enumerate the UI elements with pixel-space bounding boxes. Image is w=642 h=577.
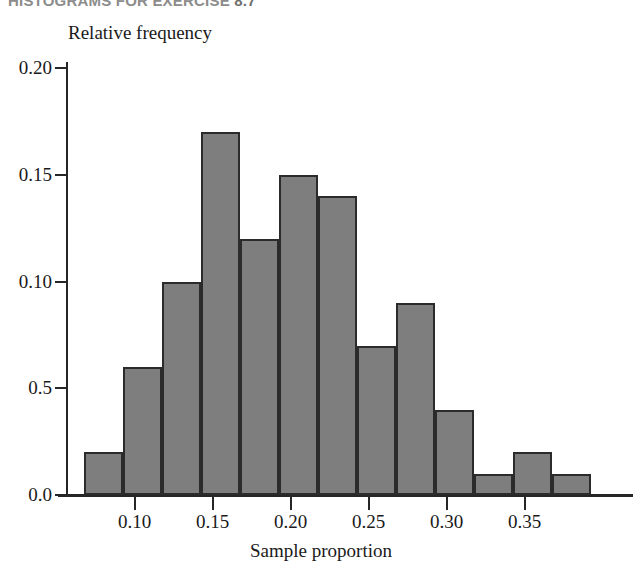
x-axis-tick (368, 497, 370, 510)
histogram-bar (279, 175, 318, 495)
x-axis-tick-label: 0.35 (485, 512, 565, 531)
histogram-bar (552, 474, 591, 495)
histogram-bar (240, 239, 279, 495)
x-axis-tick (446, 497, 448, 510)
y-axis-tick-label: 0.15 (0, 165, 52, 184)
x-axis-tick (212, 497, 214, 510)
histogram-bar (318, 196, 357, 495)
plot-area: 0.00.50.100.150.20 0.100.150.200.250.300… (0, 0, 642, 577)
y-axis-tick (55, 387, 67, 389)
y-axis-line (66, 62, 68, 497)
y-axis-tick-label: 0.10 (0, 272, 52, 291)
x-axis-tick (290, 497, 292, 510)
histogram-figure: Relative frequency 0.00.50.100.150.20 0.… (0, 0, 642, 577)
y-axis-tick-label: 0.5 (0, 378, 52, 397)
y-axis-tick (55, 174, 67, 176)
histogram-bar (357, 346, 396, 495)
x-axis-tick-label: 0.30 (407, 512, 487, 531)
histogram-bar (123, 367, 162, 495)
histogram-bar (162, 282, 201, 496)
x-axis-title: Sample proportion (0, 540, 642, 562)
x-axis-tick-label: 0.10 (95, 512, 175, 531)
histogram-bar (474, 474, 513, 495)
histogram-bar (435, 410, 474, 495)
x-axis-tick-label: 0.20 (251, 512, 331, 531)
x-axis-tick-label: 0.15 (173, 512, 253, 531)
y-axis-tick (55, 281, 67, 283)
x-axis-tick-label: 0.25 (329, 512, 409, 531)
histogram-bar (201, 132, 240, 495)
y-axis-tick (55, 67, 67, 69)
y-axis-tick (55, 494, 67, 496)
y-axis-tick-label: 0.20 (0, 58, 52, 77)
y-axis-tick-label: 0.0 (0, 485, 52, 504)
histogram-bar (84, 452, 123, 495)
x-axis-tick (134, 497, 136, 510)
histogram-bar (396, 303, 435, 495)
x-axis-tick (524, 497, 526, 510)
histogram-bar (513, 452, 552, 495)
